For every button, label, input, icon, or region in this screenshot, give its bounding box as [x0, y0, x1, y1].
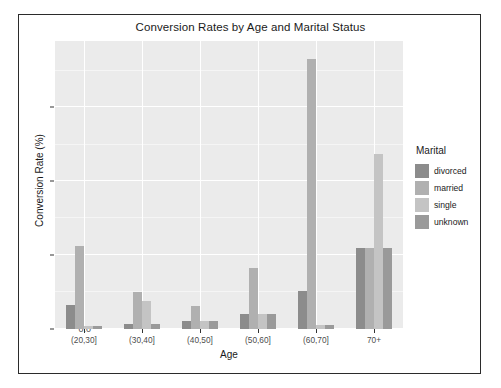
legend-swatch-icon: [415, 181, 429, 195]
x-tick-mark: [142, 329, 143, 333]
x-tick-label: 70+: [339, 335, 409, 345]
legend: Marital divorcedmarriedsingleunknown: [415, 145, 481, 230]
legend-title: Marital: [415, 145, 481, 156]
gridline-y-major: [55, 254, 403, 255]
bar: [356, 248, 365, 329]
bar: [66, 305, 75, 329]
legend-item[interactable]: married: [415, 179, 481, 196]
bar: [191, 306, 200, 329]
x-tick-mark: [200, 329, 201, 333]
gridline-y-minor: [55, 217, 403, 218]
bar: [383, 248, 392, 329]
gridline-x-major: [142, 41, 143, 329]
gridline-x-major: [316, 41, 317, 329]
gridline-y-major: [55, 328, 403, 329]
x-tick-mark: [374, 329, 375, 333]
x-tick-mark: [316, 329, 317, 333]
gridline-x-major: [200, 41, 201, 329]
chart-title: Conversion Rates by Age and Marital Stat…: [19, 21, 481, 33]
legend-item-label: single: [434, 200, 456, 210]
legend-item[interactable]: single: [415, 196, 481, 213]
y-axis-title: Conversion Rate (%): [34, 91, 45, 271]
legend-swatch-icon: [415, 198, 429, 212]
y-tick-mark: [50, 181, 54, 182]
x-axis-title: Age: [55, 349, 403, 360]
bar: [365, 248, 374, 329]
legend-item[interactable]: divorced: [415, 162, 481, 179]
y-tick-mark: [50, 329, 54, 330]
bar: [182, 321, 191, 329]
bar: [258, 314, 267, 330]
x-tick-mark: [84, 329, 85, 333]
bar: [133, 292, 142, 329]
bar: [200, 321, 209, 329]
x-tick-mark: [258, 329, 259, 333]
bar: [249, 268, 258, 329]
bar: [124, 324, 133, 329]
legend-item[interactable]: unknown: [415, 213, 481, 230]
legend-item-label: unknown: [434, 217, 468, 227]
legend-item-label: divorced: [434, 166, 466, 176]
bar: [267, 314, 276, 330]
bar: [84, 326, 93, 329]
bar: [240, 314, 249, 330]
y-tick-mark: [50, 107, 54, 108]
bar: [316, 325, 325, 329]
gridline-y-major: [55, 180, 403, 181]
bar: [151, 324, 160, 329]
bar: [307, 59, 316, 329]
bar: [142, 301, 151, 329]
gridline-y-minor: [55, 291, 403, 292]
bar: [93, 326, 102, 329]
gridline-x-major: [84, 41, 85, 329]
bar: [209, 321, 218, 329]
chart-figure: Conversion Rates by Age and Marital Stat…: [18, 14, 481, 374]
plot-panel: [55, 41, 403, 329]
bar: [325, 325, 334, 329]
gridline-x-major: [258, 41, 259, 329]
legend-items: divorcedmarriedsingleunknown: [415, 162, 481, 230]
legend-swatch-icon: [415, 164, 429, 178]
gridline-y-major: [55, 106, 403, 107]
bar: [374, 154, 383, 329]
legend-swatch-icon: [415, 215, 429, 229]
legend-item-label: married: [434, 183, 463, 193]
y-tick-mark: [50, 255, 54, 256]
bar: [298, 291, 307, 329]
bar: [75, 246, 84, 329]
gridline-y-minor: [55, 144, 403, 145]
gridline-y-minor: [55, 70, 403, 71]
